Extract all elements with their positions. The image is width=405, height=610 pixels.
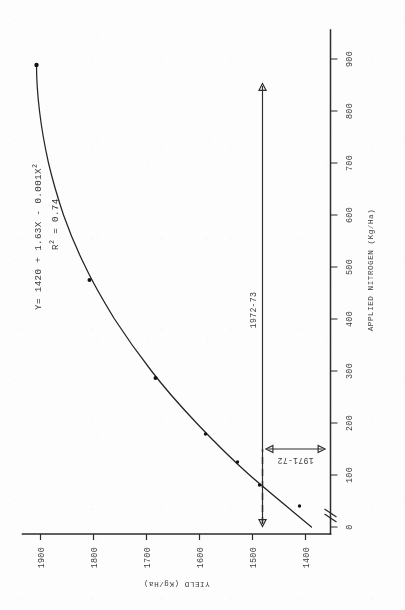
x-tick-label-400: 400 xyxy=(344,311,354,327)
y-tick-label-1800: 1800 xyxy=(89,547,99,568)
equation-annotation: Y= 1420 + 1.63X - 0.001X2 R2 = 0.74 xyxy=(31,164,60,310)
chart-canvas: 1400 1500 1600 1700 1800 1900 YIELD (Kg/… xyxy=(0,0,405,610)
range-bar-1971-72: 1971-72 xyxy=(265,445,324,465)
x-axis: 0 100 200 300 400 500 600 700 800 900 AP… xyxy=(324,30,374,534)
x-tick-label-500: 500 xyxy=(344,259,354,275)
y-axis-title: YIELD (Kg/Ha) xyxy=(143,580,209,588)
x-tick-label-300: 300 xyxy=(344,363,354,379)
yield-nitrogen-chart: 1400 1500 1600 1700 1800 1900 YIELD (Kg/… xyxy=(0,0,405,610)
equation-line-1: Y= 1420 + 1.63X - 0.001X2 xyxy=(31,164,43,310)
y-tick-label-1900: 1900 xyxy=(36,547,46,568)
x-tick-label-200: 200 xyxy=(344,415,354,431)
range-label-1971-72: 1971-72 xyxy=(277,456,314,465)
range-bar-1972-73: 1972-73 xyxy=(248,83,266,526)
y-tick-label-1700: 1700 xyxy=(142,547,152,568)
scanned-figure-plate: 1400 1500 1600 1700 1800 1900 YIELD (Kg/… xyxy=(0,0,405,610)
x-tick-label-800: 800 xyxy=(344,103,354,119)
x-tick-label-100: 100 xyxy=(344,467,354,483)
r-value: = 0.74 xyxy=(49,198,60,239)
equation-line-2: R2 = 0.74 xyxy=(48,198,60,250)
data-point xyxy=(153,376,157,380)
x-axis-title: APPLIED NITROGEN (Kg/Ha) xyxy=(366,209,374,332)
y-tick-label-1600: 1600 xyxy=(195,547,205,568)
data-point-markers xyxy=(34,63,301,508)
data-point xyxy=(257,483,260,486)
x-tick-label-900: 900 xyxy=(344,51,354,67)
r-exponent: 2 xyxy=(48,240,55,244)
y-axis: 1400 1500 1600 1700 1800 1900 YIELD (Kg/… xyxy=(22,534,330,588)
data-point xyxy=(203,432,206,435)
data-point xyxy=(34,63,38,67)
x-tick-label-700: 700 xyxy=(344,155,354,171)
equation-main: Y= 1420 + 1.63X - 0.001X xyxy=(32,168,43,310)
x-tick-label-0: 0 xyxy=(344,524,354,529)
range-label-1972-73: 1972-73 xyxy=(248,292,257,329)
data-point xyxy=(297,504,300,507)
y-tick-label-1500: 1500 xyxy=(248,547,258,568)
x-tick-label-600: 600 xyxy=(344,207,354,223)
equation-exponent: 2 xyxy=(31,164,38,168)
y-tick-label-1400: 1400 xyxy=(301,547,311,568)
r-symbol: R xyxy=(49,244,60,250)
data-point xyxy=(87,278,91,282)
fitted-curve xyxy=(36,65,311,527)
